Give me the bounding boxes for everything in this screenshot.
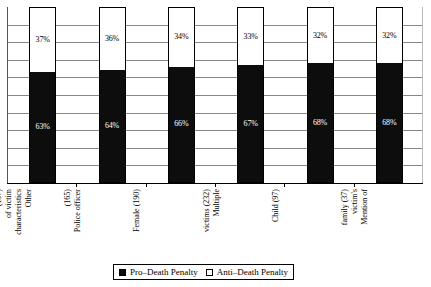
x-axis-label-line: Female (190) <box>132 189 141 232</box>
legend-swatch-anti-icon <box>206 269 213 276</box>
bar-group[interactable]: 32%68% <box>307 7 334 183</box>
gridline <box>8 165 422 166</box>
legend-label-pro: Pro–Death Penalty <box>130 268 198 277</box>
bar-value-label-anti: 36% <box>105 35 119 43</box>
bar-group[interactable]: 36%64% <box>99 7 126 183</box>
x-axis-tick <box>284 183 285 187</box>
x-axis-label-line: characteristics <box>14 189 23 235</box>
bar-segment-pro-death-penalty[interactable]: 68% <box>307 63 334 183</box>
x-axis-tick <box>215 183 216 187</box>
bar-segment-anti-death-penalty[interactable]: 32% <box>307 7 334 63</box>
bar-value-label-anti: 32% <box>382 32 396 40</box>
bar-value-label-pro: 68% <box>313 119 327 127</box>
legend-label-anti: Anti–Death Penalty <box>217 268 288 277</box>
x-axis-label-line: Multiple <box>212 189 221 217</box>
bar-value-label-pro: 68% <box>382 119 396 127</box>
x-axis-label-line: (165) <box>63 189 72 206</box>
x-axis-label-line: Police officer <box>73 189 82 232</box>
bar-segment-pro-death-penalty[interactable]: 68% <box>376 63 403 183</box>
bar-value-label-pro: 66% <box>174 120 188 128</box>
x-axis-tick <box>76 183 77 187</box>
gridline <box>8 148 422 149</box>
bar-value-label-anti: 37% <box>36 36 50 44</box>
bar-segment-anti-death-penalty[interactable]: 37% <box>29 7 56 72</box>
x-axis-tick <box>354 183 355 187</box>
x-axis-label-line: victim's <box>350 189 359 214</box>
gridline <box>8 113 422 114</box>
bar-segment-pro-death-penalty[interactable]: 64% <box>99 70 126 183</box>
gridline <box>8 42 422 43</box>
bar-segment-pro-death-penalty[interactable]: 63% <box>29 72 56 183</box>
x-axis-label: Mention ofvictim'sfamily (37) <box>340 189 400 255</box>
bar-group[interactable]: 33%67% <box>237 7 264 183</box>
x-axis-label: Multiplevictims (232) <box>202 189 262 255</box>
bar-segment-anti-death-penalty[interactable]: 32% <box>376 7 403 63</box>
x-axis-label-line: Mention of <box>360 189 369 225</box>
bar-group[interactable]: 32%68% <box>376 7 403 183</box>
x-axis-label-line: family (37) <box>340 189 349 225</box>
bar-value-label-anti: 33% <box>244 33 258 41</box>
gridline <box>8 77 422 78</box>
bar-group[interactable]: 34%66% <box>168 7 195 183</box>
bar-segment-anti-death-penalty[interactable]: 33% <box>237 7 264 65</box>
bar-segment-pro-death-penalty[interactable]: 67% <box>237 65 264 183</box>
x-axis-label-line: victims (232) <box>202 189 211 232</box>
x-axis-label: Police officer(165) <box>63 189 123 255</box>
bar-segment-anti-death-penalty[interactable]: 36% <box>99 7 126 70</box>
bar-value-label-pro: 64% <box>105 122 119 130</box>
chart-legend: Pro–Death Penalty Anti–Death Penalty <box>113 264 294 280</box>
bar-value-label-pro: 67% <box>244 120 258 128</box>
x-axis-label-line: Child (97) <box>271 189 280 222</box>
x-axis-label: Child (97) <box>271 189 331 255</box>
x-axis-label: Female (190) <box>132 189 192 255</box>
x-axis-label: Othercharacteristicsof victim(197) <box>0 189 54 255</box>
bar-segment-pro-death-penalty[interactable]: 66% <box>168 67 195 183</box>
x-axis-label-line: Other <box>24 189 33 207</box>
legend-entry-pro-death-penalty: Pro–Death Penalty <box>119 268 198 277</box>
bar-group[interactable]: 37%63% <box>29 7 56 183</box>
bar-value-label-anti: 32% <box>313 32 327 40</box>
x-axis-tick <box>146 183 147 187</box>
x-axis-label-line: (197) <box>0 189 3 206</box>
legend-entry-anti-death-penalty: Anti–Death Penalty <box>206 268 288 277</box>
plot-area: 37%63%36%64%34%66%33%67%32%68%32%68% <box>7 7 423 183</box>
gridline <box>8 130 422 131</box>
gridline <box>8 95 422 96</box>
legend-swatch-pro-icon <box>119 269 126 276</box>
stacked-bar-chart: 37%63%36%64%34%66%33%67%32%68%32%68% Oth… <box>0 0 431 287</box>
gridline <box>8 25 422 26</box>
x-axis-label-line: of victim <box>4 189 13 218</box>
bar-segment-anti-death-penalty[interactable]: 34% <box>168 7 195 67</box>
bar-value-label-pro: 63% <box>36 123 50 131</box>
gridline <box>8 60 422 61</box>
bar-value-label-anti: 34% <box>174 33 188 41</box>
